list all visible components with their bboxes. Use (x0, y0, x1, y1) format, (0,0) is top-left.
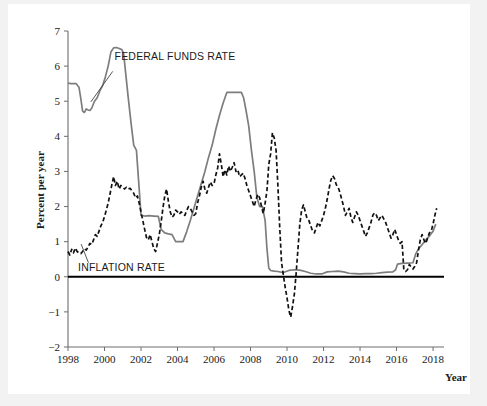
x-axis-tick-label: 2016 (386, 353, 409, 365)
y-axis-tick-label: 7 (55, 25, 61, 37)
x-axis-tick-label: 2000 (94, 353, 117, 365)
x-axis-tick-label: 2014 (349, 353, 372, 365)
x-axis-title: Year (445, 371, 467, 383)
y-axis-tick-label: 4 (55, 130, 61, 142)
x-axis-tick-label: 2018 (422, 353, 445, 365)
inflation-rate-annotation-label: INFLATION RATE (78, 261, 165, 273)
figure-page: −2−101234567 199820002002200420062008201… (0, 0, 487, 406)
series-line-federal-funds-rate (68, 48, 436, 274)
x-axis-tick-label: 2004 (167, 353, 190, 365)
y-axis-tick-label: 5 (55, 95, 61, 107)
y-axis-tick-label: 1 (55, 235, 61, 247)
line-chart: −2−101234567 199820002002200420062008201… (0, 0, 487, 406)
y-axis-tick-label: −2 (48, 341, 60, 353)
y-axis-title: Percent per year (34, 151, 46, 229)
chart-annotations: FEDERAL FUNDS RATEINFLATION RATE (78, 50, 235, 273)
y-axis-tick-label: 0 (55, 271, 61, 283)
federal-funds-rate-annotation-label: FEDERAL FUNDS RATE (115, 50, 236, 62)
chart-axes (64, 31, 444, 351)
y-axis-tick-label: 3 (55, 165, 61, 177)
x-axis-tick-label: 2008 (240, 353, 263, 365)
y-axis-tick-label: 6 (55, 60, 61, 72)
y-axis-tick-labels: −2−101234567 (48, 25, 60, 353)
y-axis-tick-label: −1 (48, 306, 60, 318)
x-axis-tick-label: 2006 (203, 353, 226, 365)
x-axis-tick-label: 1998 (57, 353, 80, 365)
federal-funds-rate-annotation-leader-line (91, 71, 113, 102)
x-axis-tick-label: 2012 (313, 353, 335, 365)
x-axis-tick-labels: 1998200020022004200620082010201220142016… (57, 353, 445, 365)
x-axis-tick-label: 2002 (130, 353, 152, 365)
x-axis-tick-label: 2010 (276, 353, 299, 365)
y-axis-tick-label: 2 (55, 200, 61, 212)
